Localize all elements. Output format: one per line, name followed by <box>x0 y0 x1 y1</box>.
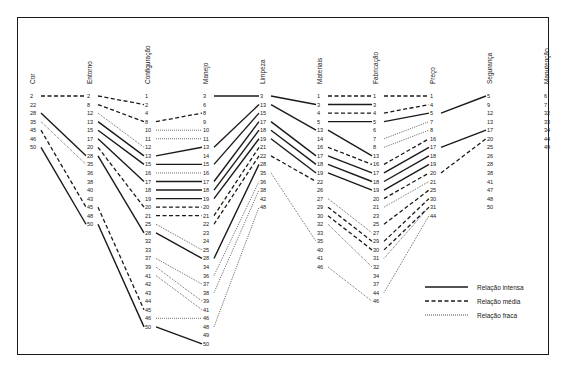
node-value: 19 <box>317 170 323 176</box>
node-value: 50 <box>145 324 151 330</box>
node-value: 1 <box>430 93 433 99</box>
node-value: 32 <box>145 238 151 244</box>
node-value: 3 <box>203 93 206 99</box>
relation-line-medium <box>384 199 429 242</box>
node-value: 41 <box>487 179 493 185</box>
node-value: 33 <box>145 247 151 253</box>
node-value: 40 <box>317 247 323 253</box>
node-value: 10 <box>203 127 209 133</box>
node-value: 15 <box>203 161 209 167</box>
node-value: 18 <box>373 179 379 185</box>
node-value: 16 <box>317 144 323 150</box>
node-value: 5 <box>373 119 376 125</box>
node-value: 30 <box>373 247 379 253</box>
node-value: 2 <box>30 93 33 99</box>
relation-line-medium <box>328 216 372 250</box>
node-value: 13 <box>145 153 151 159</box>
node-value: 7 <box>430 119 433 125</box>
relation-line-medium <box>384 105 429 114</box>
node-value: 36 <box>260 179 266 185</box>
node-value: 2 <box>87 93 90 99</box>
column-title: Fabricação <box>372 51 380 84</box>
node-value: 26 <box>487 153 493 159</box>
column-title: Configuração <box>144 45 152 84</box>
relation-line-weak <box>328 224 372 267</box>
node-value: 28 <box>30 110 36 116</box>
node-value: 18 <box>317 161 323 167</box>
node-value: 22 <box>260 153 266 159</box>
node-value: 1 <box>145 93 148 99</box>
node-value: 12 <box>487 110 493 116</box>
relation-line-weak <box>328 267 372 301</box>
node-value: 20 <box>430 170 436 176</box>
node-value: 41 <box>203 307 209 313</box>
node-value: 34 <box>373 273 379 279</box>
node-value: 16 <box>430 136 436 142</box>
node-value: 8 <box>373 144 376 150</box>
node-value: 31 <box>430 204 436 210</box>
node-value: 40 <box>87 187 93 193</box>
relation-line-medium <box>98 96 144 105</box>
node-value: 17 <box>87 136 93 142</box>
relation-line-strong <box>441 130 486 147</box>
column-title: Materiais <box>316 57 323 84</box>
relation-line-medium <box>328 147 372 164</box>
node-value: 2 <box>145 102 148 108</box>
node-value: 45 <box>30 127 36 133</box>
node-value: 46 <box>30 136 36 142</box>
node-value: 37 <box>145 255 151 261</box>
node-value: 20 <box>145 204 151 210</box>
relation-line-strong <box>41 113 86 156</box>
relation-line-medium <box>98 105 144 122</box>
node-value: 9 <box>203 119 206 125</box>
node-value: 28 <box>260 161 266 167</box>
node-value: 33 <box>317 230 323 236</box>
node-value: 11 <box>203 136 209 142</box>
relation-line-strong <box>271 96 316 105</box>
node-value: 21 <box>145 213 151 219</box>
node-value: 35 <box>30 119 36 125</box>
node-value: 20 <box>373 196 379 202</box>
relation-line-medium <box>156 113 202 122</box>
node-value: 23 <box>203 230 209 236</box>
node-value: 17 <box>145 179 151 185</box>
node-value: 28 <box>487 161 493 167</box>
node-value: 50 <box>487 204 493 210</box>
node-value: 32 <box>317 221 323 227</box>
node-value: 46 <box>317 264 323 270</box>
relation-line-strong <box>214 105 259 148</box>
node-value: 25 <box>373 221 379 227</box>
relation-line-weak <box>328 199 372 233</box>
node-value: 47 <box>487 187 493 193</box>
node-value: 37 <box>373 281 379 287</box>
node-value: 18 <box>203 187 209 193</box>
node-value: 6 <box>544 93 547 99</box>
node-value: 29 <box>317 204 323 210</box>
node-value: 16 <box>373 161 379 167</box>
relation-line-strong <box>384 113 429 122</box>
node-value: 11 <box>145 136 151 142</box>
node-value: 21 <box>260 144 266 150</box>
node-value: 6 <box>203 102 206 108</box>
node-value: 17 <box>487 127 493 133</box>
node-value: 16 <box>145 170 151 176</box>
relation-line-medium <box>41 130 86 207</box>
node-value: 4 <box>145 110 148 116</box>
node-value: 50 <box>203 341 209 347</box>
relation-line-medium <box>441 139 486 173</box>
node-value: 9 <box>487 102 490 108</box>
node-value: 15 <box>260 110 266 116</box>
column-title: Manejo <box>202 62 210 84</box>
column-title: Entorno <box>86 61 93 84</box>
node-value: 25 <box>430 187 436 193</box>
relation-line-weak <box>384 122 429 139</box>
node-value: 18 <box>145 187 151 193</box>
relation-line-weak <box>214 190 259 293</box>
relation-line-strong <box>271 139 316 173</box>
relation-line-strong <box>156 147 202 156</box>
relation-line-weak <box>384 207 429 258</box>
node-value: 44 <box>544 136 550 142</box>
node-value: 42 <box>260 196 266 202</box>
relation-line-weak <box>384 130 429 147</box>
node-value: 24 <box>203 238 209 244</box>
